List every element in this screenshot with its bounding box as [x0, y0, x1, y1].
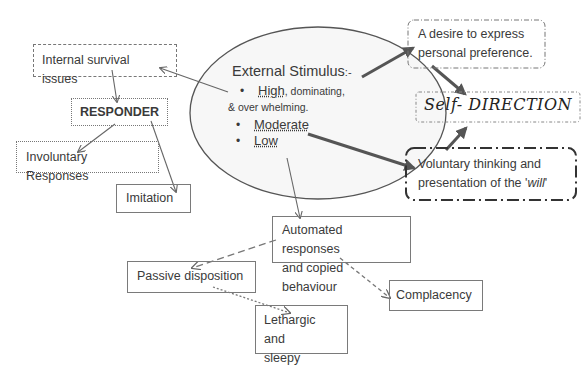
node-internal-survival-issues: Internal survival issues — [33, 44, 177, 77]
node-complacency: Complacency — [389, 280, 483, 311]
stimulus-item-high: • High, dominating, — [232, 83, 382, 99]
node-automated-responses: Automated responses and copied behaviour — [272, 216, 411, 263]
node-responder: RESPONDER — [71, 98, 168, 126]
node-passive-disposition: Passive disposition — [127, 261, 256, 293]
bullet-icon: • — [236, 133, 240, 149]
node-self-direction: Self- DIRECTION — [416, 92, 580, 122]
stimulus-label-high: High — [258, 83, 285, 98]
stimulus-label-moderate: Moderate — [254, 117, 309, 132]
node-desire-to-express: A desire to express personal preference. — [408, 20, 545, 68]
external-stimulus-title: External Stimulus:- — [232, 63, 382, 79]
node-lethargic-and-sleepy: Lethargic and sleepy — [255, 305, 348, 354]
edge-voluntary-to-self-direction — [446, 128, 466, 150]
external-stimulus-text: External Stimulus:- • High, dominating, … — [232, 63, 382, 149]
stimulus-item-moderate: • Moderate — [232, 117, 382, 133]
stimulus-label-low: Low — [254, 133, 278, 148]
node-involuntary-responses: Involuntary Responses — [16, 141, 159, 173]
node-imitation: Imitation — [116, 184, 191, 213]
diagram-canvas: External Stimulus:- • High, dominating, … — [0, 0, 585, 372]
bullet-icon: • — [240, 83, 244, 99]
stimulus-item-high-continuation: & over whelming. — [228, 99, 382, 115]
stimulus-item-low: • Low — [232, 133, 382, 149]
node-voluntary-thinking: Voluntary thinking and presentation of t… — [406, 148, 576, 200]
bullet-icon: • — [236, 117, 240, 133]
